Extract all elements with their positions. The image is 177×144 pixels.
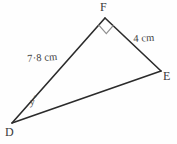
angle-label-D: y°	[29, 95, 38, 107]
vertex-label-F: F	[100, 1, 107, 13]
side-length-label-DF: 7·8 cm	[27, 52, 58, 65]
side-length-label-FE: 4 cm	[133, 33, 155, 45]
geometry-diagram: F E D 7·8 cm 4 cm y°	[0, 0, 177, 144]
triangle-svg	[0, 0, 177, 144]
vertex-label-D: D	[5, 126, 14, 138]
right-angle-marker-icon	[98, 25, 113, 34]
vertex-label-E: E	[163, 70, 171, 82]
